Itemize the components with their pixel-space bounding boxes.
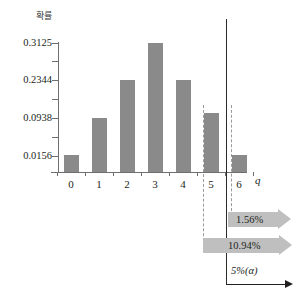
- x-tick-mark: [197, 172, 198, 176]
- x-axis-title: q: [255, 174, 261, 186]
- dashed-reference-line-q5: [203, 105, 204, 251]
- x-tick-mark: [85, 172, 86, 176]
- annotation-arrow-1-56: 1.56%: [228, 212, 290, 227]
- y-axis-label: 0.3125: [4, 38, 52, 49]
- x-tick-mark: [253, 172, 254, 176]
- x-axis-label: 5: [201, 178, 221, 190]
- bar-q0: [64, 155, 79, 172]
- x-axis-label: 0: [61, 178, 81, 190]
- x-tick-mark: [169, 172, 170, 176]
- x-tick-mark: [57, 172, 58, 176]
- y-tick-mark: [52, 43, 59, 44]
- y-axis-title: 확률: [36, 9, 53, 22]
- bar-q3: [148, 43, 163, 172]
- x-axis-label: 4: [173, 178, 193, 190]
- annotation-arrow-10-94: 10.94%: [203, 238, 293, 253]
- x-axis-label: 2: [117, 178, 137, 190]
- x-axis-label: 3: [145, 178, 165, 190]
- annotation-label-alpha: 5%(α): [231, 265, 258, 276]
- bar-q2: [120, 80, 135, 172]
- y-tick-mark: [52, 80, 59, 81]
- arrow-head: [279, 235, 292, 255]
- bar-q6: [232, 155, 247, 172]
- y-tick-mark: [52, 118, 59, 119]
- annotation-label-1-56: 1.56%: [236, 213, 263, 226]
- y-axis-label: 0.2344: [4, 75, 52, 86]
- annotation-label-10-94: 10.94%: [228, 239, 260, 252]
- x-axis-label: 1: [89, 178, 109, 190]
- arrow-head: [278, 209, 291, 229]
- x-tick-mark: [141, 172, 142, 176]
- y-tick-mark: [52, 137, 59, 138]
- x-tick-mark: [113, 172, 114, 176]
- y-tick-mark: [52, 156, 59, 157]
- alpha-arrow-line: [226, 284, 288, 285]
- bar-q4: [176, 80, 191, 172]
- x-axis-label: 6: [229, 178, 249, 190]
- probability-distribution-chart: 확률 0.3125 0.2344 0.0938 0.0156 0 1 2 3 4…: [0, 0, 302, 299]
- y-axis-label: 0.0156: [4, 151, 52, 162]
- y-tick-mark: [52, 61, 59, 62]
- bar-q5: [204, 113, 219, 172]
- bar-q1: [92, 118, 107, 172]
- dashed-reference-line-q6: [231, 105, 232, 211]
- y-axis-label: 0.0938: [4, 113, 52, 124]
- x-axis-line: [51, 172, 247, 173]
- alpha-arrow-head: [285, 280, 293, 288]
- y-tick-mark: [52, 99, 59, 100]
